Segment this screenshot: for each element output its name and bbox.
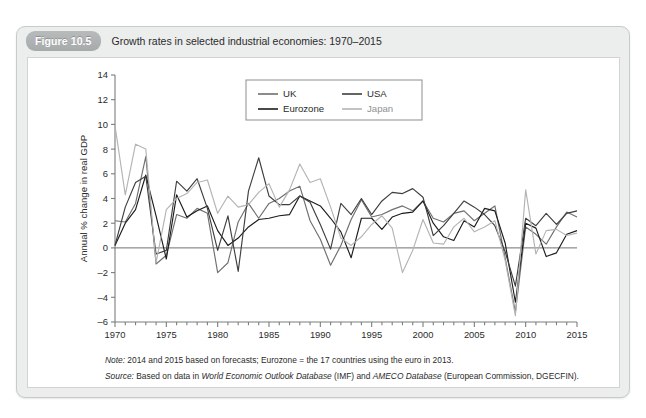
series-line-japan [115,126,577,316]
note-text: 2014 and 2015 based on forecasts; Eurozo… [125,355,454,365]
x-tick-label: 1990 [310,329,331,340]
figure-caption-bar: Figure 10.5 Growth rates in selected ind… [17,27,629,55]
y-tick-label: 4 [103,193,108,204]
note-label: Note: [105,355,125,365]
legend-box [246,80,422,120]
x-tick-label: 2010 [515,329,536,340]
chart-legend: UKUSAEurozoneJapan [246,80,422,120]
y-tick-label: 8 [103,144,108,155]
y-tick-label: 10 [98,119,108,130]
y-tick-label: 12 [98,94,108,105]
source-publication-1: World Economic Outlook Database [201,371,331,381]
x-tick-label: 2015 [567,329,588,340]
y-tick-label: –6 [98,316,108,327]
legend-label-usa: USA [367,88,387,99]
legend-label-eurozone: Eurozone [283,103,324,114]
line-chart: –6–4–202468101214Annual % change in real… [28,58,621,389]
legend-label-japan: Japan [367,103,393,114]
source-publication-2: AMECO Database [373,371,442,381]
chart-card: –6–4–202468101214Annual % change in real… [27,57,620,388]
series-line-uk [115,157,577,313]
x-tick-label: 1975 [156,329,177,340]
source-pre: Based on data in [134,371,202,381]
y-tick-label: –4 [98,292,108,303]
y-tick-label: 2 [103,218,108,229]
source-label: Source: [105,371,134,381]
series-line-eurozone [115,175,577,302]
y-tick-label: 6 [103,168,108,179]
figure-title: Growth rates in selected industrial econ… [112,35,382,47]
y-tick-label: –2 [98,267,108,278]
y-axis-title: Annual % change in real GDP [78,135,89,262]
figure-number-badge: Figure 10.5 [26,31,101,51]
figure-panel: Figure 10.5 Growth rates in selected ind… [16,26,630,398]
figure-note: Note: 2014 and 2015 based on forecasts; … [105,355,454,365]
y-tick-label: 14 [98,69,108,80]
chart-canvas: –6–4–202468101214Annual % change in real… [28,58,621,389]
legend-label-uk: UK [283,88,297,99]
x-tick-label: 1970 [105,329,126,340]
x-tick-label: 1985 [259,329,280,340]
x-tick-label: 2005 [464,329,485,340]
source-post: (European Commission, DGECFIN). [442,371,579,381]
x-tick-label: 1995 [361,329,382,340]
y-tick-label: 0 [103,242,108,253]
source-mid: (IMF) and [332,371,373,381]
x-tick-label: 1980 [207,329,228,340]
x-tick-label: 2000 [413,329,434,340]
series-line-usa [115,158,577,286]
figure-source: Source: Based on data in World Economic … [105,371,579,381]
